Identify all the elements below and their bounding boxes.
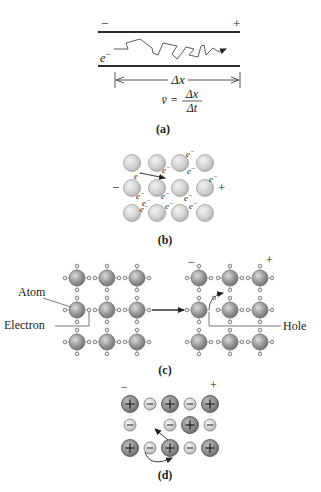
valence-electron [258, 296, 262, 300]
positive-terminal-sign: + [210, 378, 217, 392]
atom-with-electrons [63, 296, 91, 324]
covalent-lattice-after [185, 264, 274, 356]
valence-electron [93, 308, 97, 312]
valence-electron [63, 308, 67, 312]
valence-electron [228, 296, 232, 300]
atom-core [129, 270, 145, 286]
positive-ion [162, 396, 179, 413]
valence-electron [105, 328, 109, 332]
svg-text:e−: e− [134, 170, 143, 181]
valence-electron [87, 308, 91, 312]
valence-electron [75, 328, 79, 332]
valence-electron [228, 352, 232, 356]
valence-electron [147, 340, 151, 344]
positive-ion [202, 396, 219, 413]
positive-terminal-sign: + [218, 180, 225, 195]
atom-core [99, 270, 115, 286]
atom-core [69, 334, 85, 350]
valence-electron [216, 340, 220, 344]
valence-electron [197, 296, 201, 300]
valence-electron [197, 288, 201, 292]
negative-ion [144, 398, 156, 410]
atom-core [191, 334, 207, 350]
hole-label: Hole [283, 319, 306, 333]
valence-electron [123, 276, 127, 280]
atom-with-electrons [246, 264, 274, 292]
valence-electron [123, 340, 127, 344]
atom-core [99, 302, 115, 318]
valence-electron [75, 352, 79, 356]
valence-electron [228, 320, 232, 324]
valence-electron [197, 328, 201, 332]
svg-text:e−: e− [186, 148, 195, 159]
valence-electron [270, 340, 274, 344]
positive-ion [162, 440, 179, 457]
valence-electron [123, 308, 127, 312]
atom-core [252, 270, 268, 286]
positive-ion [202, 440, 219, 457]
covalent-lattice-before [63, 264, 151, 356]
valence-electron [185, 276, 189, 280]
panel-c: Atom Electron − + Hole (c) [4, 253, 306, 377]
svg-text:e−: e− [140, 203, 149, 214]
valence-electron [147, 276, 151, 280]
positive-ion [182, 417, 199, 434]
valence-electron [87, 276, 91, 280]
panel-label-b: (b) [158, 233, 173, 247]
atom-core [252, 302, 268, 318]
valence-electron [197, 320, 201, 324]
ion-lattice [122, 396, 219, 457]
valence-electron [105, 320, 109, 324]
formula-denominator: Δt [186, 101, 198, 115]
valence-electron [75, 296, 79, 300]
valence-electron [228, 288, 232, 292]
negative-ion [124, 419, 136, 431]
atom-label: Atom [18, 285, 46, 299]
electron-label: Electron [4, 318, 45, 332]
valence-electron [228, 264, 232, 268]
valence-electron [185, 340, 189, 344]
valence-electron [240, 276, 244, 280]
electron-symbol: e− [100, 49, 111, 65]
positive-ion [122, 396, 139, 413]
panel-label-c: (c) [158, 363, 171, 377]
valence-electron [93, 340, 97, 344]
negative-terminal-sign: − [112, 180, 119, 195]
valence-electron [209, 340, 213, 344]
valence-electron [228, 328, 232, 332]
negative-terminal-sign: − [188, 255, 195, 269]
valence-electron [75, 264, 79, 268]
svg-text:e−: e− [209, 173, 218, 184]
valence-electron [147, 308, 151, 312]
valence-electron [117, 308, 121, 312]
hole-leader-line [209, 312, 281, 326]
svg-text:e−: e− [162, 164, 171, 175]
valence-electron [246, 308, 250, 312]
negative-ion [204, 419, 216, 431]
negative-terminal-sign: − [101, 16, 108, 31]
panel-d: − + (d) [121, 378, 219, 482]
atom-core [191, 270, 207, 286]
valence-electron [197, 352, 201, 356]
valence-electron [105, 288, 109, 292]
valence-electron [93, 276, 97, 280]
atom-with-electrons [246, 328, 274, 356]
valence-electron [105, 264, 109, 268]
valence-electron [246, 340, 250, 344]
valence-electron [105, 352, 109, 356]
valence-electron [135, 352, 139, 356]
valence-electron [135, 288, 139, 292]
valence-electron [135, 264, 139, 268]
valence-electron [258, 320, 262, 324]
valence-electron [240, 308, 244, 312]
valence-electron [216, 308, 220, 312]
atom-with-electrons [246, 296, 274, 324]
electron-hop-arrow [209, 293, 223, 310]
valence-electron [209, 276, 213, 280]
valence-electron [246, 276, 250, 280]
valence-electron [270, 308, 274, 312]
atom-core [191, 302, 207, 318]
valence-electron [135, 320, 139, 324]
negative-ion [184, 398, 196, 410]
valence-electron [185, 308, 189, 312]
